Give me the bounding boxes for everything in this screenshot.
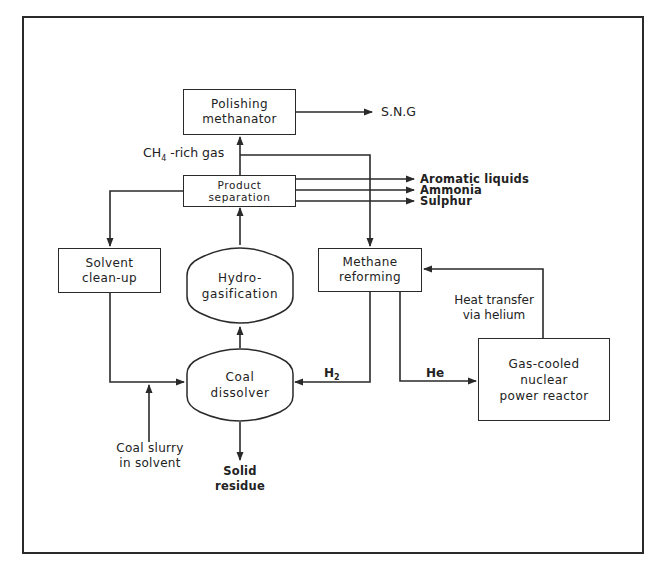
nuclear-reactor-box: Gas-cooled nuclear power reactor xyxy=(478,338,610,421)
coal-slurry-line-1: Coal slurry xyxy=(110,441,190,456)
methane-reforming-label-1: Methane xyxy=(339,255,401,270)
heat-transfer-line-2: via helium xyxy=(445,308,543,323)
polishing-methanator-label-2: methanator xyxy=(202,112,277,127)
polishing-methanator-label-1: Polishing xyxy=(202,97,277,112)
solvent-return-line xyxy=(110,191,183,246)
nuclear-reactor-label-3: power reactor xyxy=(499,388,588,404)
hydrogasification-vessel: Hydro- gasification xyxy=(187,248,293,323)
h2-prefix: H xyxy=(324,366,334,380)
nuclear-reactor-label-1: Gas-cooled xyxy=(499,356,588,372)
sng-label: S.N.G xyxy=(381,105,416,119)
methane-reforming-box: Methane reforming xyxy=(318,248,422,292)
ch4-suffix: -rich gas xyxy=(166,145,224,160)
hydrogasification-label-1: Hydro- xyxy=(202,270,278,286)
hydrogasification-label-2: gasification xyxy=(202,286,278,302)
coal-dissolver-label-1: Coal xyxy=(211,369,270,385)
product-separation-label-1: Product xyxy=(209,179,271,191)
heat-transfer-label: Heat transfer via helium xyxy=(445,293,543,323)
h2-label: H2 xyxy=(324,366,340,385)
nuclear-reactor-label-2: nuclear xyxy=(499,372,588,388)
coal-slurry-line-2: in solvent xyxy=(110,456,190,471)
he-label: He xyxy=(426,366,444,380)
sulphur-label: Sulphur xyxy=(420,194,472,208)
solid-residue-line-2: residue xyxy=(210,479,270,494)
methane-reforming-label-2: reforming xyxy=(339,270,401,285)
solvent-cleanup-label-2: clean-up xyxy=(82,271,137,286)
coal-dissolver-vessel: Coal dissolver xyxy=(187,350,293,420)
heat-transfer-line-1: Heat transfer xyxy=(445,293,543,308)
polishing-methanator-box: Polishing methanator xyxy=(183,89,296,135)
product-separation-label-2: separation xyxy=(209,191,271,203)
solid-residue-line-1: Solid xyxy=(210,464,270,479)
ch4-prefix: CH xyxy=(143,145,161,160)
coal-slurry-label: Coal slurry in solvent xyxy=(110,441,190,471)
coal-dissolver-label-2: dissolver xyxy=(211,385,270,401)
solvent-cleanup-label-1: Solvent xyxy=(82,256,137,271)
product-separation-box: Product separation xyxy=(183,175,296,207)
h2-subscript: 2 xyxy=(334,373,340,382)
solid-residue-label: Solid residue xyxy=(210,464,270,494)
ch4-rich-gas-label: CH4 -rich gas xyxy=(143,146,224,166)
solvent-to-dissolver-line xyxy=(110,293,184,382)
solvent-cleanup-box: Solvent clean-up xyxy=(58,248,161,293)
